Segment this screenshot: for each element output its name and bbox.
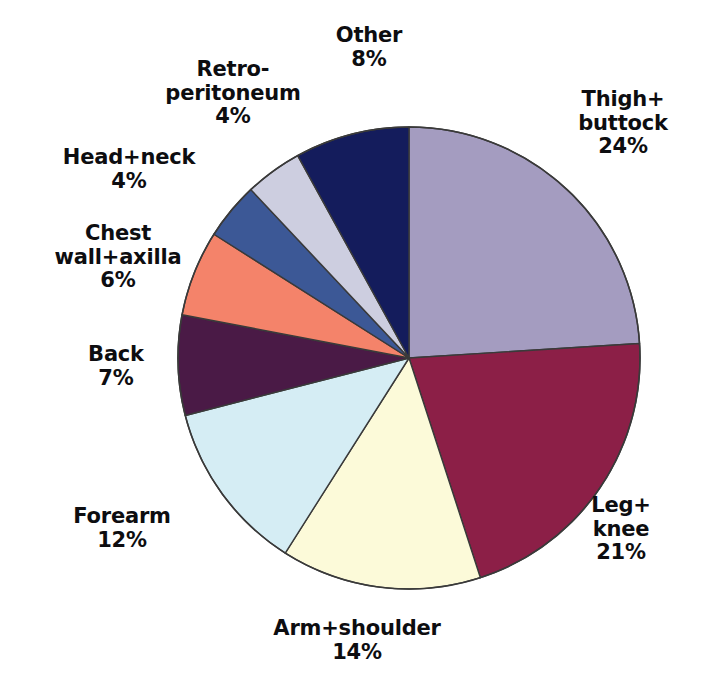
slice-label-head-neck-line1: Head+neck [34,146,224,170]
slice-label-chest-wall-axilla-line1: Chest [20,222,216,246]
slice-label-arm-shoulder: Arm+shoulder 14% [234,617,480,664]
slice-label-arm-shoulder-percent: 14% [234,641,480,665]
slice-label-leg-knee-line1: Leg+ [556,494,686,518]
slice-label-arm-shoulder-line1: Arm+shoulder [234,617,480,641]
slice-label-back: Back 7% [48,343,184,390]
slice-label-chest-wall-axilla-percent: 6% [20,269,216,293]
slice-label-other-line1: Other [294,24,444,48]
slice-label-head-neck-percent: 4% [34,170,224,194]
slice-label-back-line1: Back [48,343,184,367]
slice-label-forearm-percent: 12% [42,529,202,553]
slice-label-thigh-buttock-line2: buttock [548,112,698,136]
slice-label-other: Other 8% [294,24,444,71]
slice-label-other-percent: 8% [294,48,444,72]
slice-label-retroperitoneum-percent: 4% [140,105,326,129]
pie-slice-thigh-buttock [409,127,640,358]
slice-label-back-percent: 7% [48,367,184,391]
pie-chart: Thigh+ buttock 24% Leg+ knee 21% Arm+sho… [0,0,701,679]
slice-label-leg-knee-line2: knee [556,518,686,542]
slice-label-thigh-buttock-line1: Thigh+ [548,88,698,112]
slice-label-thigh-buttock: Thigh+ buttock 24% [548,88,698,159]
slice-label-chest-wall-axilla-line2: wall+axilla [20,246,216,270]
slice-label-retroperitoneum-line2: peritoneum [140,82,326,106]
slice-label-head-neck: Head+neck 4% [34,146,224,193]
slice-label-chest-wall-axilla: Chest wall+axilla 6% [20,222,216,293]
slice-label-thigh-buttock-percent: 24% [548,135,698,159]
slice-label-forearm-line1: Forearm [42,505,202,529]
slice-label-leg-knee-percent: 21% [556,541,686,565]
slice-label-leg-knee: Leg+ knee 21% [556,494,686,565]
slice-label-forearm: Forearm 12% [42,505,202,552]
